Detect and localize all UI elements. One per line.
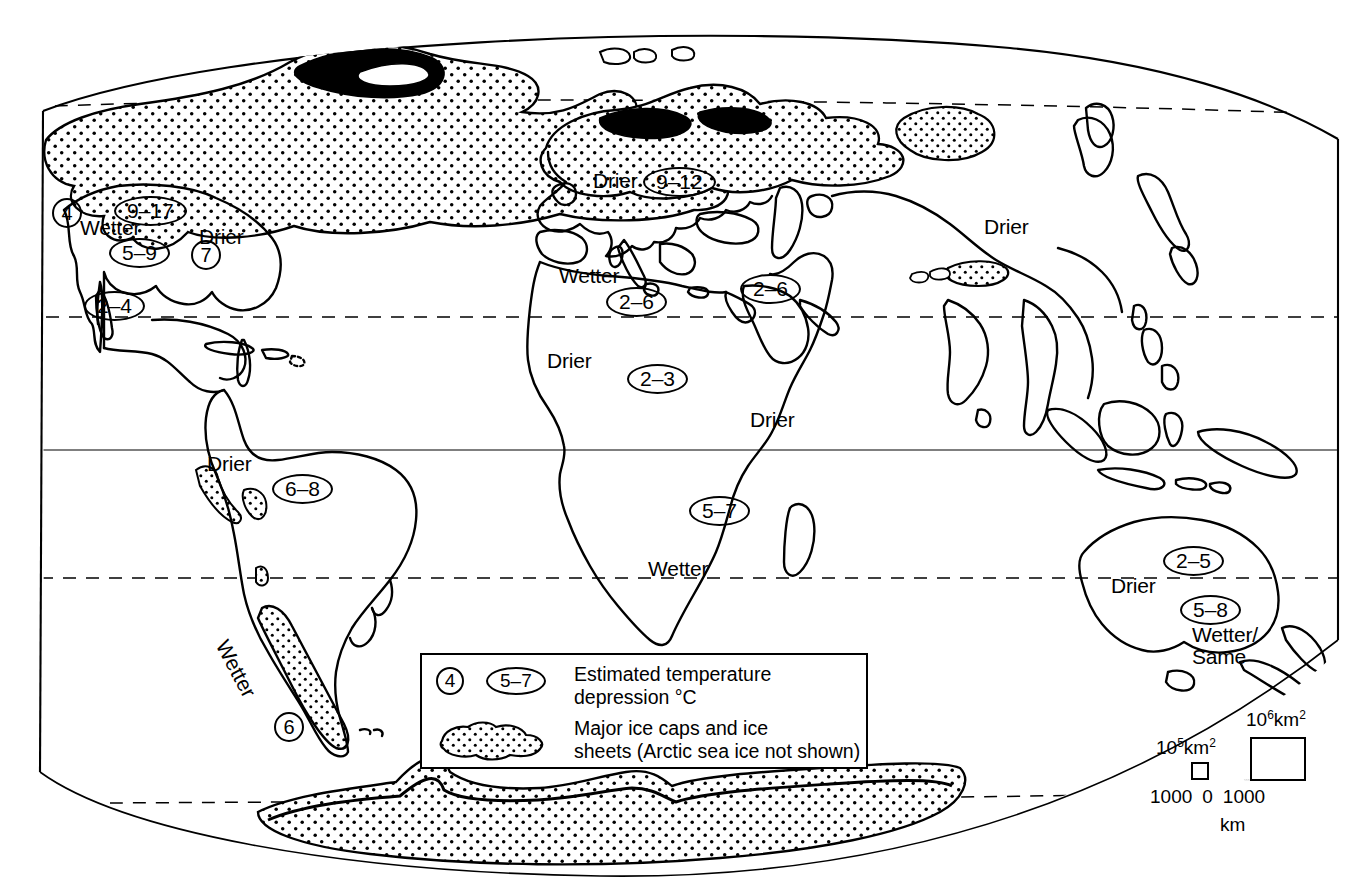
scale-tick-right: 1000: [1223, 786, 1265, 808]
scale-106-base: 10: [1246, 709, 1267, 730]
value-chip-na-sw: 2–4: [84, 291, 145, 321]
kamchatka: [1086, 104, 1114, 147]
scale-tick-center: 0: [1202, 786, 1213, 808]
japan: [1138, 174, 1189, 251]
arctic-island-ice-3: [672, 47, 694, 60]
scale-label-10-6: 106km2: [1246, 708, 1306, 731]
label-east-africa-drier: Drier: [750, 409, 795, 431]
scale-tick-labels: 1000 0 1000: [1150, 786, 1350, 808]
sri-lanka: [976, 410, 990, 427]
korea-japan-1: [1074, 118, 1113, 177]
asia-coast: [832, 192, 1093, 399]
scale-105-base: 10: [1156, 737, 1177, 758]
label-nz-wetter: Wetter/: [1192, 624, 1258, 646]
antarctic-ice-sheet: [258, 758, 965, 865]
scale-tick-left: 1000: [1150, 786, 1192, 808]
scale-ruler: [1191, 780, 1306, 781]
value-chip-laurentide: 9–17: [114, 196, 187, 226]
falklands-1: [360, 729, 370, 734]
legend-temp-line2: depression °C: [574, 686, 771, 709]
iberia: [536, 230, 587, 264]
tibet-ice-cap-3: [910, 272, 928, 283]
caspian-sea: [772, 187, 802, 258]
value-chip-south-america: 6–8: [272, 474, 333, 504]
label-nz-same: Same: [1192, 646, 1246, 668]
value-chip-sahara: 2–3: [627, 364, 688, 394]
legend-ice-line1: Major ice caps and ice: [574, 717, 860, 740]
falklands-2: [374, 729, 383, 736]
label-sahara-drier: Drier: [547, 350, 592, 372]
lesser-sunda-2: [1210, 482, 1230, 493]
label-australia-drier: Drier: [1111, 575, 1156, 597]
new-zealand-south: [1240, 660, 1311, 704]
borneo: [1099, 401, 1159, 454]
world-map: 4 Wetter 9–17 Drier 5–9 7 2–4 Drier 9–12…: [0, 0, 1371, 896]
scale-unit-label: km: [1220, 814, 1245, 836]
value-chip-arabia: 2–6: [740, 274, 801, 304]
value-chip-medit: 2–6: [606, 287, 667, 317]
lesser-sunda-1: [1176, 478, 1206, 489]
arctic-island-ice-1: [600, 49, 630, 64]
legend-round-symbol: 4: [436, 667, 464, 695]
caribbean-islands-3: [290, 356, 304, 366]
caribbean-islands-2: [262, 349, 288, 359]
severnaya-ice-cap: [896, 107, 994, 160]
scale-106-unit: km: [1274, 709, 1299, 730]
value-chip-south-africa: 5–7: [689, 496, 750, 526]
africa-coast: [527, 253, 832, 645]
legend-ice-text: Major ice caps and ice sheets (Arctic se…: [574, 717, 860, 763]
label-asia-drier: Drier: [984, 216, 1029, 238]
japan-south: [1170, 247, 1198, 284]
se-asia: [1022, 300, 1057, 435]
scale-106-unit-exp: 2: [1299, 708, 1306, 722]
java: [1098, 468, 1164, 489]
value-chip-australia-5-8: 5–8: [1180, 595, 1241, 625]
value-chip-na-west: 4: [52, 198, 82, 228]
label-south-africa-wetter: Wetter: [648, 558, 708, 580]
arctic-island-ice-2: [634, 49, 656, 62]
legend-temp-line1: Estimated temperature: [574, 663, 771, 686]
tasmania: [1166, 671, 1194, 691]
legend-ice-line2: sheets (Arctic sea ice not shown): [574, 740, 860, 763]
map-scale-bar: 105km2 106km2 1000 0 1000 km: [1162, 706, 1362, 858]
value-chip-na-se: 7: [191, 240, 221, 270]
legend-ice-swatch: [434, 715, 554, 763]
andes-ice-small: [256, 566, 268, 585]
scale-106-exp: 6: [1267, 708, 1274, 722]
legend-temperature-text: Estimated temperature depression °C: [574, 663, 771, 709]
scale-label-10-5: 105km2: [1156, 736, 1216, 759]
andes-ice-mid: [243, 489, 267, 519]
new-guinea: [1198, 429, 1297, 477]
scale-105-exp: 5: [1177, 736, 1184, 750]
philippines-2: [1162, 365, 1178, 390]
tibet-ice-cap-2: [930, 268, 950, 279]
value-chip-australia-2-5: 2–5: [1163, 546, 1224, 576]
scale-105-unit: km: [1184, 737, 1209, 758]
gulf-coast: [152, 320, 245, 380]
label-eurasia-drier: Drier: [593, 170, 638, 192]
label-medit-wetter: Wetter: [559, 265, 619, 287]
scale-105-unit-exp: 2: [1209, 736, 1216, 750]
scale-area-square-small: [1191, 762, 1209, 780]
sumatra: [1047, 409, 1106, 462]
label-south-america-drier: Drier: [207, 453, 252, 475]
value-chip-fennoscandian: 9–12: [643, 167, 716, 197]
black-sea: [697, 212, 759, 244]
legend-oval-symbol: 5–7: [486, 667, 546, 695]
madagascar: [784, 504, 814, 576]
india-subcontinent: [944, 300, 988, 404]
philippines-1: [1142, 329, 1162, 364]
value-chip-patagonia: 6: [274, 712, 304, 742]
greece-balkans: [660, 243, 695, 274]
china-coast: [1058, 248, 1122, 312]
sulawesi: [1164, 413, 1182, 446]
tibet-ice-cap: [946, 261, 1008, 286]
scale-area-square-large: [1250, 737, 1306, 781]
aral-sea: [807, 195, 832, 217]
map-legend: 4 5–7 Estimated temperature depression °…: [420, 653, 868, 769]
value-chip-na-5-9: 5–9: [109, 238, 170, 268]
central-america: [104, 348, 224, 392]
